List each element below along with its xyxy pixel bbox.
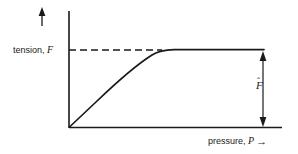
y-axis-label-text: tension,: [13, 45, 47, 55]
x-axis-label-symbol: P: [248, 135, 254, 146]
x-axis-label-text: pressure,: [208, 136, 248, 146]
tension-curve: [70, 50, 265, 127]
x-axis-label: pressure, P→: [208, 136, 267, 147]
chart-svg: [0, 0, 298, 154]
y-direction-up-arrow-icon: [39, 7, 46, 26]
y-axis-label: tension, F: [13, 45, 53, 55]
right-arrow-icon: →: [256, 136, 267, 147]
figure-container: tension, F pressure, P→ ˆ F: [0, 0, 298, 154]
y-axis-label-symbol: F: [47, 44, 53, 55]
span-label: F: [256, 80, 263, 91]
